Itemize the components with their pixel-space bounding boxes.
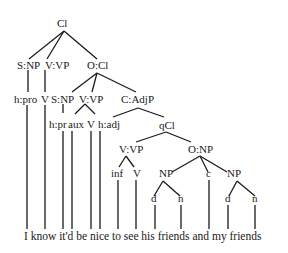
node-v-be: V — [87, 118, 95, 130]
node-conj: c — [206, 167, 211, 179]
node-verb: V:VP — [45, 59, 69, 71]
node-d1: d — [151, 192, 157, 204]
node-np2: NP — [227, 167, 241, 179]
node-object-clause: O:Cl — [87, 59, 108, 71]
node-obj-verb: V:VP — [79, 93, 103, 105]
node-v-know: V — [41, 93, 49, 105]
tree-nodes: Cl S:NP V:VP O:Cl h:pro V S:NP V:VP C:Ad… — [14, 17, 258, 204]
sentence: I know it'd be nice to see his friends a… — [24, 230, 262, 243]
node-subject: S:NP — [17, 59, 40, 71]
node-q-verb: V:VP — [119, 143, 143, 155]
node-complement: C:AdjP — [121, 93, 154, 105]
node-h-pr: h:pr — [49, 118, 67, 130]
node-root: Cl — [57, 17, 67, 29]
node-obj-subject: S:NP — [51, 93, 74, 105]
node-q-object: O:NP — [188, 143, 213, 155]
node-inf: inf — [111, 167, 124, 179]
node-h-adj: h:adj — [98, 118, 120, 130]
node-n2: n — [252, 192, 258, 204]
node-aux: aux — [68, 118, 84, 130]
node-n1: n — [178, 192, 184, 204]
node-v-see: V — [133, 167, 141, 179]
node-qcl: qCl — [159, 119, 175, 131]
syntax-tree-diagram: Cl S:NP V:VP O:Cl h:pro V S:NP V:VP C:Ad… — [0, 0, 288, 253]
node-h-pro: h:pro — [14, 93, 38, 105]
node-d2: d — [225, 192, 231, 204]
node-np1: NP — [159, 167, 173, 179]
